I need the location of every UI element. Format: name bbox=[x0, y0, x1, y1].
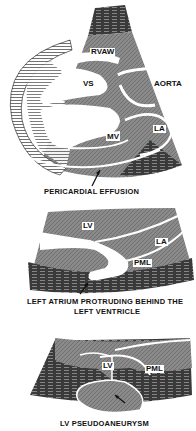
label-pml: PML bbox=[145, 365, 164, 373]
label-lv: LV bbox=[102, 362, 114, 370]
caption-lv-pseudoaneurysm: LV PSEUDOANEURYSM bbox=[60, 420, 149, 429]
lv-pseudoaneurysm-diagram bbox=[0, 0, 196, 431]
